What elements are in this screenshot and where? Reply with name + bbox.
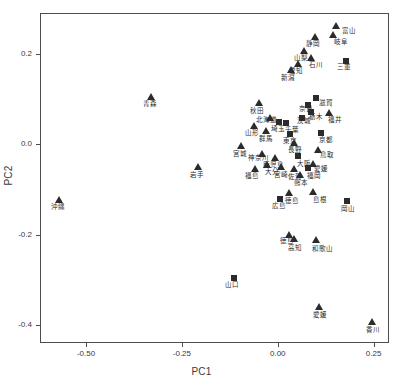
point-label: 島根 (313, 197, 327, 204)
y-axis-title: PC2 (3, 146, 14, 206)
point-label: 和歌山 (312, 246, 333, 253)
y-axis-tick-label: 0.2 (2, 49, 32, 58)
point-label: 愛媛 (313, 312, 327, 319)
x-axis-tick-mark (278, 343, 279, 347)
triangle-marker-icon (251, 165, 259, 172)
point-label: 岩手 (190, 172, 204, 179)
x-axis-tick-mark (182, 343, 183, 347)
x-axis-tick-label: 0.25 (354, 349, 394, 358)
point-label: 福井 (328, 117, 342, 124)
x-axis-tick-mark (374, 343, 375, 347)
point-label: 京都 (319, 137, 333, 144)
triangle-marker-icon (332, 22, 340, 29)
point-label: 岐阜 (334, 39, 348, 46)
data-points-layer: 富山岐阜静岡山梨石川三重愛知新潟青森滋賀秋田奈良栃木福井北海道茨城埼玉千葉山形群… (0, 0, 403, 384)
triangle-marker-icon (263, 161, 271, 168)
point-label: 香川 (366, 327, 380, 334)
x-axis-tick-label: -0.50 (66, 349, 106, 358)
triangle-marker-icon (315, 303, 323, 310)
point-label: 岡山 (341, 206, 355, 213)
x-axis-title: PC1 (0, 366, 403, 377)
point-label: 石川 (309, 62, 323, 69)
point-label: 宮城 (233, 151, 247, 158)
y-axis-tick-mark (36, 235, 40, 236)
point-label: 茨城 (297, 118, 311, 125)
x-axis-tick-label: -0.25 (162, 349, 202, 358)
point-label: 富山 (342, 28, 356, 35)
point-label: 滋賀 (319, 100, 333, 107)
point-label: 栃木 (309, 114, 323, 121)
point-label: 広島 (272, 203, 286, 210)
point-label: 秋田 (250, 108, 264, 115)
x-axis-tick-label: 0.00 (258, 349, 298, 358)
point-label: 山口 (225, 282, 239, 289)
triangle-marker-icon (277, 163, 285, 170)
triangle-marker-icon (255, 99, 263, 106)
square-marker-icon (231, 275, 237, 281)
triangle-marker-icon (294, 60, 302, 67)
triangle-marker-icon (290, 235, 298, 242)
triangle-marker-icon (368, 318, 376, 325)
point-label: 埼玉 (271, 126, 285, 133)
triangle-marker-icon (307, 54, 315, 61)
y-axis-tick-mark (36, 144, 40, 145)
point-label: 福岡 (307, 173, 321, 180)
triangle-marker-icon (194, 163, 202, 170)
point-label: 高知 (288, 245, 302, 252)
point-label: 徳島 (285, 198, 299, 205)
point-label: 群馬 (259, 136, 273, 143)
point-label: 宮崎 (274, 172, 288, 179)
point-label: 鳥取 (320, 152, 334, 159)
triangle-marker-icon (296, 171, 304, 178)
point-label: 新潟 (281, 75, 295, 82)
square-marker-icon (344, 198, 350, 204)
triangle-marker-icon (311, 33, 319, 40)
y-axis-tick-label: -0.2 (2, 230, 32, 239)
point-label: 熊本 (294, 180, 308, 187)
y-axis-tick-mark (36, 54, 40, 55)
point-label: 沖縄 (51, 204, 65, 211)
point-label: 北海道 (256, 117, 277, 124)
triangle-marker-icon (329, 31, 337, 38)
triangle-marker-icon (312, 236, 320, 243)
point-label: 青森 (143, 101, 157, 108)
point-label: 福島 (245, 173, 259, 180)
triangle-marker-icon (287, 66, 295, 73)
y-axis-tick-label: -0.4 (2, 320, 32, 329)
triangle-marker-icon (262, 127, 270, 134)
triangle-marker-icon (309, 188, 317, 195)
point-label: 山形 (245, 130, 259, 137)
y-axis-tick-mark (36, 325, 40, 326)
triangle-marker-icon (237, 142, 245, 149)
x-axis-tick-mark (86, 343, 87, 347)
y-axis-tick-label: 0.0 (2, 139, 32, 148)
square-marker-icon (295, 153, 301, 159)
pca-scatter-plot-figure: 富山岐阜静岡山梨石川三重愛知新潟青森滋賀秋田奈良栃木福井北海道茨城埼玉千葉山形群… (0, 0, 403, 384)
point-label: 三重 (337, 64, 351, 71)
triangle-marker-icon (285, 189, 293, 196)
point-label: 愛媛 (314, 166, 328, 173)
triangle-marker-icon (55, 196, 63, 203)
triangle-marker-icon (290, 139, 298, 146)
